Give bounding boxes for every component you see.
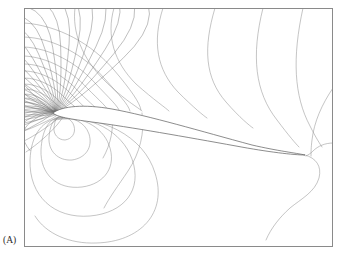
- figure-container: (A): [0, 0, 352, 262]
- panel-label: (A): [3, 235, 16, 246]
- airfoil-equipotential-plot: (A): [0, 0, 352, 262]
